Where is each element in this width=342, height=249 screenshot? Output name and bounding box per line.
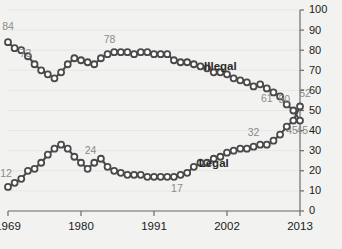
x-axis-tick-label: 1991	[141, 220, 167, 232]
data-point-marker	[71, 154, 77, 160]
data-point-marker	[85, 59, 91, 65]
data-point-marker	[164, 51, 170, 57]
data-point-label: 12	[0, 167, 12, 179]
data-point-marker	[237, 77, 243, 83]
data-point-marker	[138, 49, 144, 55]
series-name-label: Illegal	[204, 60, 237, 72]
data-point-marker	[51, 75, 57, 81]
data-point-marker	[71, 55, 77, 61]
data-point-marker	[105, 164, 111, 170]
data-point-label: 17	[171, 182, 183, 194]
data-point-label: 61	[261, 92, 273, 104]
data-point-marker	[231, 148, 237, 154]
data-point-marker	[111, 168, 117, 174]
data-point-marker	[12, 180, 18, 186]
data-point-marker	[105, 51, 111, 57]
data-point-marker	[184, 170, 190, 176]
data-point-marker	[85, 166, 91, 172]
data-point-label: 45	[297, 124, 309, 136]
data-point-marker	[151, 51, 157, 57]
data-point-marker	[131, 51, 137, 57]
data-point-marker	[277, 132, 283, 138]
data-point-marker	[290, 118, 296, 124]
data-point-marker	[124, 172, 130, 178]
data-point-marker	[251, 144, 257, 150]
data-point-marker	[184, 59, 190, 65]
y-axis-tick-label: 100	[309, 3, 327, 15]
y-axis-tick-label: 30	[309, 144, 321, 156]
data-point-marker	[32, 166, 38, 172]
data-point-marker	[191, 164, 197, 170]
data-point-marker	[297, 103, 303, 109]
data-point-marker	[178, 59, 184, 65]
data-point-marker	[98, 156, 104, 162]
y-axis-tick-label: 80	[309, 44, 321, 56]
data-point-marker	[45, 152, 51, 158]
x-axis-tick-label: 2002	[214, 220, 240, 232]
data-point-marker	[270, 138, 276, 144]
data-point-label: 50	[279, 93, 291, 105]
y-axis-tick-label: 50	[309, 104, 321, 116]
data-point-marker	[58, 69, 64, 75]
data-point-marker	[45, 71, 51, 77]
data-point-marker	[171, 57, 177, 63]
data-point-marker	[38, 67, 44, 73]
data-point-marker	[124, 49, 130, 55]
data-point-marker	[164, 174, 170, 180]
y-axis-tick-label: 70	[309, 64, 321, 76]
series-name-label: Legal	[199, 157, 229, 169]
data-point-label: 73	[20, 47, 32, 59]
data-point-marker	[78, 160, 84, 166]
data-point-marker	[131, 172, 137, 178]
x-axis-tick-label: 1969	[0, 220, 21, 232]
data-point-marker	[264, 142, 270, 148]
series-illegal: 847378615045Illegal	[2, 20, 303, 135]
data-point-marker	[138, 172, 144, 178]
data-point-marker	[237, 146, 243, 152]
data-point-marker	[257, 81, 263, 87]
data-point-marker	[5, 184, 11, 190]
data-point-label: 52	[299, 87, 311, 99]
data-point-marker	[78, 57, 84, 63]
data-point-marker	[257, 142, 263, 148]
y-axis-tick-label: 20	[309, 164, 321, 176]
data-point-marker	[224, 150, 230, 156]
data-point-marker	[65, 61, 71, 67]
data-point-marker	[151, 174, 157, 180]
data-point-label: 84	[2, 20, 14, 32]
y-axis-tick-label: 10	[309, 184, 321, 196]
data-point-marker	[65, 146, 71, 152]
data-point-marker	[111, 49, 117, 55]
data-point-marker	[158, 51, 164, 57]
data-point-marker	[58, 142, 64, 148]
x-axis-tick-label: 1980	[68, 220, 94, 232]
data-point-marker	[197, 63, 203, 69]
data-point-marker	[25, 168, 31, 174]
data-point-label: 24	[85, 144, 97, 156]
data-point-marker	[144, 174, 150, 180]
data-point-marker	[264, 85, 270, 91]
chart-plot-area: 1009080706050403020100196919801991200220…	[0, 0, 342, 249]
data-point-marker	[91, 160, 97, 166]
data-point-marker	[118, 49, 124, 55]
data-point-marker	[251, 83, 257, 89]
data-point-marker	[284, 124, 290, 130]
y-axis-tick-label: 90	[309, 24, 321, 36]
data-point-marker	[144, 49, 150, 55]
data-point-marker	[5, 39, 11, 45]
data-point-marker	[98, 55, 104, 61]
data-point-marker	[290, 108, 296, 114]
data-point-marker	[12, 45, 18, 51]
y-axis-tick-label: 40	[309, 124, 321, 136]
data-point-marker	[51, 146, 57, 152]
data-point-marker	[158, 174, 164, 180]
data-point-marker	[18, 176, 24, 182]
data-point-marker	[38, 160, 44, 166]
y-axis-tick-label: 0	[309, 204, 315, 216]
data-point-marker	[91, 61, 97, 67]
data-point-marker	[32, 61, 38, 67]
data-point-marker	[191, 61, 197, 67]
x-axis-tick-label: 2013	[287, 220, 313, 232]
data-point-label: 32	[248, 126, 260, 138]
immigration-line-chart: 1009080706050403020100196919801991200220…	[0, 0, 342, 249]
